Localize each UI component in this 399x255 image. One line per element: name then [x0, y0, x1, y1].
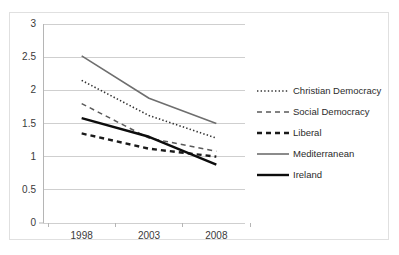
- legend-swatch-christian-democracy: [256, 85, 290, 97]
- x-tick-label: 2003: [126, 231, 172, 241]
- x-tick-label: 2008: [193, 231, 239, 241]
- y-tick-label: 0: [6, 218, 36, 228]
- chart-legend: Christian Democracy Social Democracy Lib…: [256, 80, 388, 185]
- legend-label-christian-democracy: Christian Democracy: [293, 85, 381, 96]
- legend-swatch-ireland: [256, 169, 290, 181]
- y-tick-label: 0.5: [6, 185, 36, 195]
- series-line-ireland: [82, 118, 217, 164]
- legend-label-ireland: Ireland: [293, 169, 322, 180]
- y-tick-label: 2: [6, 85, 36, 95]
- legend-item-christian-democracy: Christian Democracy: [256, 80, 388, 101]
- y-tick-label: 2.5: [6, 52, 36, 62]
- y-tick-label: 1: [6, 152, 36, 162]
- x-tick-label: 1998: [59, 231, 105, 241]
- legend-label-liberal: Liberal: [293, 127, 322, 138]
- y-tick-label: 1.5: [6, 119, 36, 129]
- legend-swatch-social-democracy: [256, 106, 290, 118]
- legend-item-liberal: Liberal: [256, 122, 388, 143]
- legend-item-social-democracy: Social Democracy: [256, 101, 388, 122]
- legend-swatch-liberal: [256, 127, 290, 139]
- legend-label-social-democracy: Social Democracy: [293, 106, 370, 117]
- y-tick-label: 3: [6, 19, 36, 29]
- series-line-christian-democracy: [82, 80, 217, 138]
- legend-item-mediterranean: Mediterranean: [256, 143, 388, 164]
- x-tick-marks: [39, 223, 250, 227]
- legend-item-ireland: Ireland: [256, 164, 388, 185]
- series-lines: [82, 56, 217, 165]
- series-line-social-democracy: [82, 104, 217, 152]
- chart-container: 00.511.522.53 199820032008 Christian Dem…: [0, 0, 399, 255]
- legend-label-mediterranean: Mediterranean: [293, 148, 354, 159]
- legend-swatch-mediterranean: [256, 148, 290, 160]
